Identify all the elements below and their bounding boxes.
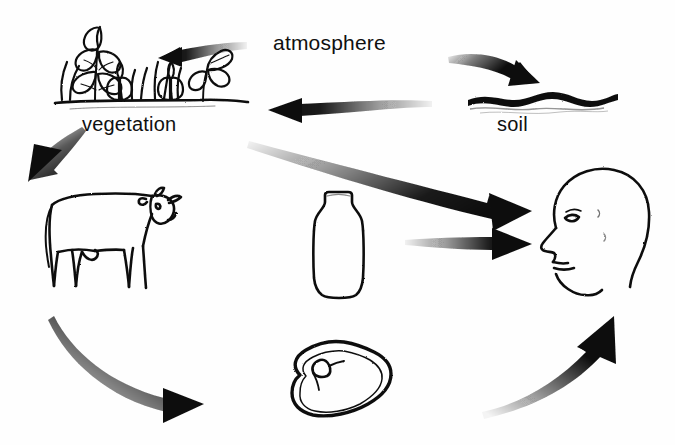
cow-belly xyxy=(95,250,124,251)
bottle-neck-line xyxy=(327,195,350,197)
head-chin xyxy=(556,274,585,295)
human-head-illustration xyxy=(541,169,649,295)
label-atmosphere: atmosphere xyxy=(273,31,386,55)
grass-blade-7 xyxy=(178,68,181,99)
cow-illustration xyxy=(46,188,181,288)
arrow-cow-to-meat-head xyxy=(163,388,204,423)
arrow-cow-to-meat xyxy=(48,316,204,423)
arrow-bottle-to-human-head xyxy=(492,228,532,260)
milk-bottle-illustration xyxy=(313,192,363,298)
arrow-atmosphere-to-soil-head xyxy=(508,60,540,86)
arrow-vegetation-to-human-head xyxy=(489,193,532,231)
soil-surface-wave xyxy=(468,92,618,107)
head-upper-lip xyxy=(553,262,568,263)
head-nose xyxy=(541,228,556,262)
cow-horn-right xyxy=(168,196,181,203)
soil-under-line xyxy=(470,108,604,110)
head-cheek-mark xyxy=(604,234,606,241)
diagram-canvas: atmosphere vegetation soil xyxy=(0,0,675,445)
label-soil: soil xyxy=(497,113,528,136)
arrow-meat-to-human xyxy=(482,316,616,419)
head-ear-mark xyxy=(598,210,600,217)
cow-front-leg-front xyxy=(143,246,146,288)
meat-cut-illustration xyxy=(292,341,391,415)
diagram-illustration xyxy=(0,0,675,445)
cow-rump xyxy=(50,205,54,286)
arrow-vegetation-to-cow xyxy=(28,127,86,182)
vegetation-illustration xyxy=(55,27,248,109)
meat-bone-line xyxy=(329,361,344,366)
grass-blade-4 xyxy=(141,68,147,99)
arrow-atmosphere-to-soil xyxy=(448,54,540,86)
cow-eye xyxy=(156,204,160,209)
cow-hind-leg-inner xyxy=(54,252,58,286)
arrow-bottle-to-human xyxy=(405,228,532,260)
cow-ear xyxy=(139,198,147,205)
arrow-vegetation-to-human-body xyxy=(247,141,528,228)
label-vegetation: vegetation xyxy=(82,113,176,136)
plant-leaf-lower-left xyxy=(73,72,96,93)
cow-back xyxy=(52,194,152,205)
soil-illustration xyxy=(468,92,618,113)
arrow-soil-to-vegetation xyxy=(268,98,432,123)
head-jaw xyxy=(585,290,602,295)
head-eyebrow xyxy=(566,210,581,212)
meat-outer-edge xyxy=(292,341,391,415)
cow-belly-rear xyxy=(58,250,95,252)
cow-chest xyxy=(143,214,152,246)
arrow-vegetation-to-human xyxy=(247,141,532,231)
vegetation-ground-line xyxy=(55,100,248,103)
head-mouth xyxy=(554,268,574,270)
sprout-center-leaf-left xyxy=(107,78,119,100)
cow-front-leg-inner xyxy=(129,248,133,287)
grass-blade-1 xyxy=(61,62,67,100)
plant-right-leaf-right xyxy=(208,69,229,87)
cow-hind-leg-back xyxy=(76,252,82,286)
vegetation-ground-shadow xyxy=(70,106,215,109)
arrow-soil-to-vegetation-head xyxy=(268,98,302,123)
bottle-outline xyxy=(313,192,363,298)
head-eye xyxy=(565,215,579,221)
meat-bone-notch xyxy=(312,360,330,377)
